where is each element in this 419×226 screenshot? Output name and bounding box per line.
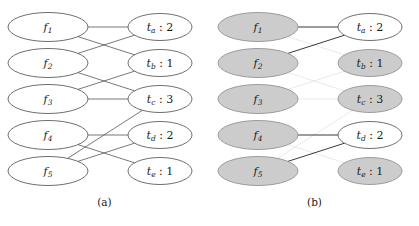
node-label-te: te : 1 [147,165,174,180]
node-f3[interactable]: f3 [8,85,88,114]
graph-canvas-a: f1f2f3f4f5ta : 2tb : 1tc : 3td : 2te : 1 [0,0,209,200]
edge-f2-ta [288,35,345,53]
node-td[interactable]: td : 2 [338,122,402,149]
edge-f1-tb [78,37,135,55]
node-label-td: td : 2 [147,129,174,144]
node-label-tb: tb : 1 [147,57,174,72]
panel-a: f1f2f3f4f5ta : 2tb : 1tc : 3td : 2te : 1… [0,0,209,226]
panel-caption-a: (a) [0,196,209,208]
panel-caption-b: (b) [210,196,419,208]
node-label-ta: ta : 2 [147,21,174,36]
node-label-ta: ta : 2 [357,21,384,36]
node-label-td: td : 2 [357,129,384,144]
node-tb[interactable]: tb : 1 [338,50,402,77]
bipartite-graph-figure: f1f2f3f4f5ta : 2tb : 1tc : 3td : 2te : 1… [0,0,419,226]
edge-f4-te [78,145,135,163]
node-te[interactable]: te : 1 [338,158,402,185]
node-f5[interactable]: f5 [8,157,88,186]
node-label-tc: tc : 3 [147,93,173,108]
node-tc[interactable]: tc : 3 [338,86,402,113]
edge-f2-tc [78,73,135,91]
node-td[interactable]: td : 2 [128,122,192,149]
node-label-tb: tb : 1 [357,57,384,72]
graph-canvas-b: f1f2f3f4f5ta : 2tb : 1tc : 3td : 2te : 1 [210,0,419,200]
edge-f4-te [288,145,345,163]
edge-f2-ta [78,35,135,53]
node-tb[interactable]: tb : 1 [128,50,192,77]
node-tc[interactable]: tc : 3 [128,86,192,113]
node-f4[interactable]: f4 [8,121,88,150]
panel-b: f1f2f3f4f5ta : 2tb : 1tc : 3td : 2te : 1… [210,0,419,226]
edge-f2-tc [288,73,345,91]
node-f4[interactable]: f4 [218,121,298,150]
node-f2[interactable]: f2 [8,49,88,78]
node-f3[interactable]: f3 [218,85,298,114]
node-te[interactable]: te : 1 [128,158,192,185]
edge-f3-tb [288,71,345,89]
node-ta[interactable]: ta : 2 [338,14,402,41]
node-ta[interactable]: ta : 2 [128,14,192,41]
node-label-tc: tc : 3 [357,93,383,108]
node-f5[interactable]: f5 [218,157,298,186]
node-f2[interactable]: f2 [218,49,298,78]
node-label-te: te : 1 [357,165,384,180]
node-f1[interactable]: f1 [218,13,298,42]
node-f1[interactable]: f1 [8,13,88,42]
edge-f1-tb [288,37,345,55]
edge-f3-tb [78,71,135,89]
